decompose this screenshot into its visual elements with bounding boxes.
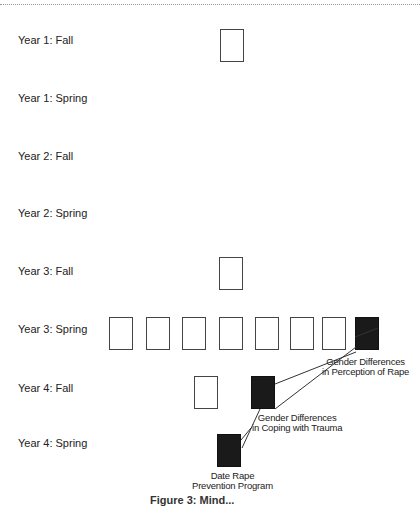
row-label-year1-fall: Year 1: Fall: [18, 34, 73, 46]
course-box-year3-spring-3: [182, 317, 206, 350]
row-label-year4-spring: Year 4: Spring: [18, 437, 87, 449]
note-gender-perception: Gender Differences in Perception of Rape: [322, 357, 409, 377]
course-box-year3-spring-6: [290, 317, 314, 350]
note-coping-line2: in Coping with Trauma: [252, 423, 342, 433]
course-box-year4-fall: [194, 376, 218, 409]
row-label-year3-spring: Year 3: Spring: [18, 323, 87, 335]
top-dotted-divider: [0, 4, 420, 5]
course-box-year1-fall: [220, 29, 244, 62]
figure-caption: Figure 3: Mind...: [150, 494, 234, 506]
course-box-year3-spring-4: [219, 317, 243, 350]
course-box-gender-perception: [355, 317, 379, 350]
row-label-year2-fall: Year 2: Fall: [18, 150, 73, 162]
note-perception-line2: in Perception of Rape: [322, 367, 409, 377]
course-box-year3-spring-5: [255, 317, 279, 350]
row-label-year2-spring: Year 2: Spring: [18, 207, 87, 219]
note-prevention-line2: Prevention Program: [192, 481, 273, 491]
course-box-year3-spring-7: [322, 317, 346, 350]
note-gender-coping: Gender Differences in Coping with Trauma: [252, 413, 342, 433]
course-box-year3-spring-2: [146, 317, 170, 350]
course-box-year3-fall: [219, 257, 243, 290]
course-box-gender-coping: [251, 376, 275, 409]
row-label-year3-fall: Year 3: Fall: [18, 265, 73, 277]
row-label-year1-spring: Year 1: Spring: [18, 92, 87, 104]
course-box-date-rape-prevention: [217, 434, 241, 467]
note-date-rape-prevention: Date Rape Prevention Program: [192, 471, 273, 491]
course-box-year3-spring-1: [109, 317, 133, 350]
row-label-year4-fall: Year 4: Fall: [18, 382, 73, 394]
